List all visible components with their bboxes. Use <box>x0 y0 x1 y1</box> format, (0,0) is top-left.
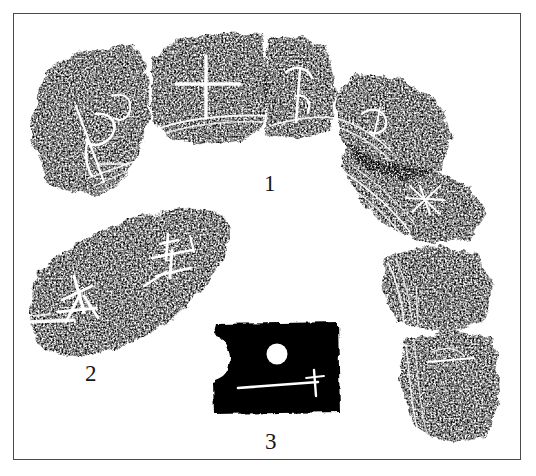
object-2-lens-fragment <box>30 209 231 357</box>
caption-number-3: 3 <box>265 430 277 453</box>
object-3-rectangular-plaque <box>213 322 340 414</box>
caption-number-1: 1 <box>264 172 276 195</box>
circular-perforation <box>267 344 288 365</box>
caption-number-2: 2 <box>85 362 97 385</box>
fragment-1b <box>152 32 268 144</box>
figure-artwork <box>0 0 536 476</box>
figure-plate: 1 2 3 <box>0 0 536 476</box>
fragment-1a <box>28 44 150 196</box>
